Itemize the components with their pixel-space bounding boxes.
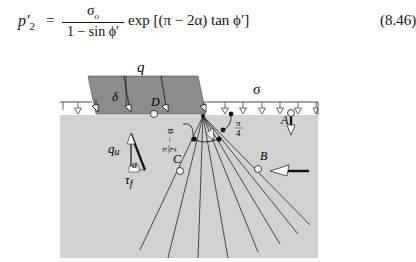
label-c: C: [173, 152, 182, 166]
label-d: D: [150, 95, 160, 109]
label-alpha-triangle: α: [132, 159, 138, 170]
label-b: B: [260, 149, 268, 163]
label-delta: δ: [112, 89, 119, 104]
svg-text:π: π: [236, 118, 241, 128]
point-a-marker: [288, 110, 295, 117]
svg-text:2: 2: [168, 148, 178, 153]
label-sigma: σ: [253, 82, 261, 97]
svg-text:− α: − α: [164, 128, 175, 142]
label-q: q: [137, 59, 145, 75]
point-d-marker: [151, 111, 158, 118]
footing: [88, 76, 206, 114]
soil-region: [60, 115, 318, 258]
point-b-marker: [255, 166, 262, 173]
svg-text:4: 4: [236, 128, 241, 138]
label-a: A: [280, 113, 289, 127]
point-c-marker: [177, 168, 184, 175]
fan-apex: [201, 114, 205, 118]
angle-dot-left: [191, 136, 196, 141]
angle-dot-right: [216, 136, 221, 141]
